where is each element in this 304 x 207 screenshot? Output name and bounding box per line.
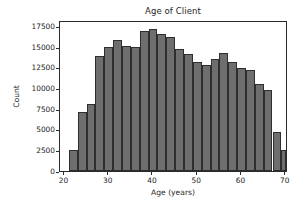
- histogram-bar: [104, 47, 113, 171]
- chart-title: Age of Client: [59, 6, 287, 16]
- y-axis-tick-label: 5000: [36, 125, 55, 134]
- histogram-bar: [87, 104, 96, 171]
- histogram-bar: [122, 46, 131, 171]
- y-axis-tick-label: 2500: [36, 146, 55, 155]
- histogram-bar: [255, 84, 264, 171]
- histogram-bar: [228, 62, 237, 171]
- x-axis-label: Age (years): [59, 188, 287, 197]
- histogram-bar: [193, 62, 202, 171]
- bars-layer: [60, 22, 286, 171]
- x-axis-tick-label: 50: [192, 176, 201, 185]
- histogram-bar: [140, 31, 149, 171]
- x-axis-tick-mark: [63, 172, 64, 175]
- histogram-bar: [273, 132, 282, 171]
- y-axis-tick-label: 15000: [31, 43, 55, 52]
- histogram-bar: [166, 37, 175, 171]
- histogram-bar: [175, 49, 184, 171]
- histogram-bar: [184, 54, 193, 171]
- x-axis-tick-label: 30: [103, 176, 112, 185]
- y-axis-tick-label: 12500: [31, 63, 55, 72]
- x-axis-tick-mark: [284, 172, 285, 175]
- histogram-bar: [211, 59, 220, 171]
- histogram-bar: [157, 34, 166, 171]
- histogram-bar: [149, 29, 158, 171]
- x-axis-tick-mark: [151, 172, 152, 175]
- histogram-bar: [95, 56, 104, 171]
- x-axis-tick-label: 20: [59, 176, 68, 185]
- histogram-bar: [202, 65, 211, 171]
- histogram-bar: [281, 150, 285, 171]
- x-axis-tick-label: 60: [236, 176, 245, 185]
- histogram-bar: [246, 70, 255, 171]
- histogram-bar: [69, 150, 78, 171]
- x-axis-tick-mark: [107, 172, 108, 175]
- histogram-bar: [237, 68, 246, 171]
- y-axis-tick-label: 7500: [36, 105, 55, 114]
- y-axis-tick-label: 17500: [31, 22, 55, 31]
- histogram-bar: [78, 112, 87, 171]
- x-axis-tick-label: 70: [280, 176, 289, 185]
- histogram-bar: [131, 47, 140, 171]
- x-axis-tick-label: 40: [147, 176, 156, 185]
- histogram-bar: [264, 90, 273, 171]
- plot-area: [59, 21, 287, 172]
- x-axis-tick-mark: [240, 172, 241, 175]
- histogram-bar: [219, 53, 228, 171]
- y-axis: 025005000750010000125001500017500: [0, 21, 59, 172]
- histogram-figure: Age of Client Count 02500500075001000012…: [0, 0, 304, 207]
- x-axis-tick-mark: [196, 172, 197, 175]
- y-axis-tick-label: 0: [50, 167, 55, 176]
- histogram-bar: [113, 40, 122, 171]
- y-axis-tick-label: 10000: [31, 84, 55, 93]
